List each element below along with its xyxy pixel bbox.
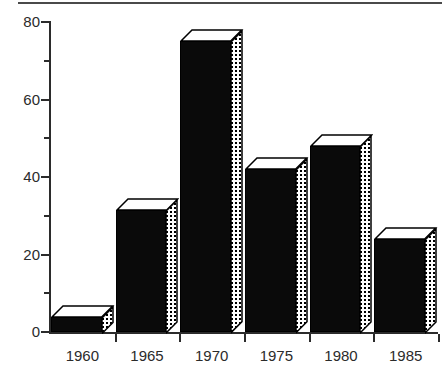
- bar-front-face: [245, 169, 296, 332]
- y-tick-label: 20: [2, 247, 40, 262]
- y-tick-label: 40: [2, 169, 40, 184]
- x-tick-label: 1970: [180, 348, 244, 364]
- x-tick: [244, 334, 246, 342]
- y-tick-major: [41, 21, 50, 23]
- plot-area: 020406080 196019651970197519801985: [0, 0, 448, 384]
- bar-front-face: [374, 239, 425, 332]
- x-tick-label: 1960: [50, 348, 114, 364]
- bar-front-face: [116, 210, 167, 332]
- y-tick-label: 0: [2, 324, 40, 339]
- y-tick-label: 80: [2, 14, 40, 29]
- y-tick-minor: [44, 60, 50, 62]
- bar-side-face: [296, 158, 309, 334]
- y-tick-major: [41, 254, 50, 256]
- y-tick-minor: [44, 292, 50, 294]
- y-tick-minor: [44, 137, 50, 139]
- bar-side-face: [425, 228, 438, 334]
- x-tick-label: 1980: [309, 348, 373, 364]
- bar-side-face: [166, 199, 179, 334]
- x-tick: [115, 334, 117, 342]
- y-tick-major: [41, 331, 50, 333]
- x-tick: [179, 334, 181, 342]
- y-tick-label: 60: [2, 92, 40, 107]
- x-tick-label: 1965: [115, 348, 179, 364]
- x-tick-label: 1975: [244, 348, 308, 364]
- bar-side-face: [360, 135, 373, 334]
- x-tick: [309, 334, 311, 342]
- x-tick-label: 1985: [374, 348, 438, 364]
- bar-front-face: [180, 41, 231, 332]
- figure-container: 020406080 196019651970197519801985: [0, 0, 448, 384]
- bar-side-face: [231, 30, 244, 334]
- y-tick-minor: [44, 215, 50, 217]
- x-tick: [438, 334, 440, 342]
- x-tick: [373, 334, 375, 342]
- bar-front-face: [51, 317, 102, 333]
- y-tick-major: [41, 99, 50, 101]
- y-tick-major: [41, 176, 50, 178]
- bar-front-face: [310, 146, 361, 332]
